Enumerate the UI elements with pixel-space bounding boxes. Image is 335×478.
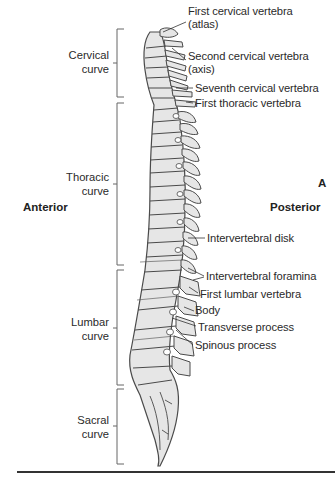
label-intervertebral-disk: Intervertebral disk	[207, 232, 294, 245]
label-intervertebral-foramina: Intervertebral foramina	[206, 270, 316, 283]
orientation-posterior: Posterior	[270, 201, 321, 213]
label-body: Body	[195, 304, 220, 317]
label-sacral-curve: Sacral curve	[77, 414, 109, 441]
curve-line: curve	[66, 185, 109, 199]
curve-line: Sacral	[77, 414, 109, 428]
label-first-thoracic-vertebra: First thoracic vertebra	[195, 97, 301, 110]
spine-diagram: First cervical vertebra (atlas) Second c…	[0, 0, 335, 478]
label-spinous-process: Spinous process	[195, 339, 276, 352]
label-transverse-process: Transverse process	[198, 321, 294, 334]
label-line: First cervical vertebra	[188, 5, 293, 18]
curve-line: curve	[77, 428, 109, 442]
label-line: (axis)	[188, 63, 309, 76]
label-line: (atlas)	[188, 18, 293, 31]
label-thoracic-curve: Thoracic curve	[66, 171, 109, 198]
curve-line: Thoracic	[66, 171, 109, 185]
label-second-cervical-vertebra: Second cervical vertebra (axis)	[188, 50, 309, 75]
label-first-cervical-vertebra: First cervical vertebra (atlas)	[188, 5, 293, 30]
orientation-anterior: Anterior	[23, 201, 68, 213]
label-line: Second cervical vertebra	[188, 50, 309, 63]
curve-brackets	[113, 29, 124, 464]
label-lumbar-curve: Lumbar curve	[71, 316, 109, 343]
curve-line: curve	[69, 63, 109, 77]
curve-line: Lumbar	[71, 316, 109, 330]
label-cervical-curve: Cervical curve	[69, 49, 109, 76]
curve-line: curve	[71, 330, 109, 344]
label-first-lumbar-vertebra: First lumbar vertebra	[200, 288, 301, 301]
figure-divider-rule	[17, 471, 335, 473]
label-seventh-cervical-vertebra: Seventh cervical vertebra	[195, 82, 319, 95]
panel-letter: A	[318, 177, 326, 189]
curve-line: Cervical	[69, 49, 109, 63]
